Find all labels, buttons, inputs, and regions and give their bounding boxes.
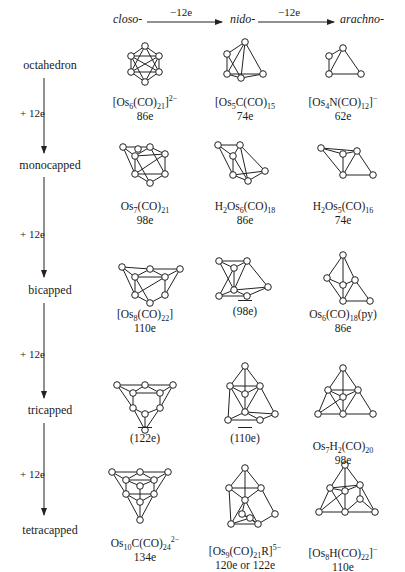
electron-count-tetracapped-nido: 120e or 122e [190,559,300,571]
metal-metal-bond [218,145,233,175]
os-atom [216,293,223,300]
os-atom [137,483,144,490]
metal-metal-bond [245,42,263,74]
os-atom [340,45,347,52]
os-atom [316,509,323,516]
unknown-compound-bar [238,300,252,301]
electron-count-monocapped-nido: 86e [190,214,300,226]
cluster-structures [0,0,405,572]
os-atom [224,51,231,58]
cluster-tricapped-nido [225,363,279,424]
os-atom [147,300,154,307]
os-atom [128,53,135,60]
os-atom [242,409,249,416]
os-atom [245,178,252,185]
formula-bicapped-closo: [Os8(CO)22] [90,308,200,321]
cluster-octahedron-arachno [326,45,365,78]
formula-tetracapped-nido: [Os9(CO)21R]5− [190,545,300,558]
metal-metal-bond [245,412,275,414]
os-atom [137,469,144,476]
os-atom [162,151,169,158]
os-atom [132,274,139,281]
os-atom [354,148,361,155]
formula-monocapped-closo: Os7(CO)21 [90,200,200,213]
os-atom [342,488,349,495]
os-atom [242,497,249,504]
electron-count-tricapped-arachno: 98e [288,454,398,466]
os-atom [225,417,232,424]
formula-tricapped-arachno: Os7H2(CO)20 [288,440,398,453]
metal-metal-bond [240,145,265,171]
os-atom [151,491,158,498]
metal-metal-bond [122,267,135,295]
os-atom [135,146,142,153]
electron-count-tricapped-closo: (122e) [90,427,200,444]
os-atom [142,43,149,50]
os-atom [340,282,347,289]
os-atom [157,405,164,412]
os-atom [231,287,238,294]
os-atom [340,298,347,305]
electron-count-bicapped-closo: 110e [90,322,200,334]
os-atom [123,477,130,484]
metal-metal-bond [229,468,245,488]
os-atom [367,298,374,305]
os-atom [262,168,269,175]
metal-metal-bond [343,255,355,280]
electron-count-monocapped-closo: 98e [90,214,200,226]
os-atom [326,53,333,60]
os-atom [372,509,379,516]
os-atom [170,382,177,389]
os-atom [257,417,264,424]
os-atom [244,293,251,300]
metal-metal-bond [261,488,275,514]
os-atom [226,485,233,492]
metal-metal-bond [229,488,231,524]
formula-tetracapped-closo: Os10C(CO)242− [90,537,200,550]
metal-metal-bond [260,386,275,414]
os-atom [325,387,332,394]
metal-metal-bond [357,151,373,175]
metal-metal-bond [135,277,165,295]
os-atom [272,411,279,418]
os-atom [132,153,139,160]
cluster-monocapped-closo [120,144,169,187]
formula-monocapped-nido: H2Os6(CO)18 [190,200,300,213]
os-atom [215,142,222,149]
os-atom [142,79,149,86]
metal-metal-bond [240,145,248,181]
os-atom [370,411,377,418]
electron-count-bicapped-arachno: 86e [288,322,398,334]
os-atom [162,171,169,178]
os-atom [260,71,267,78]
os-atom [318,145,325,152]
os-atom [120,144,127,151]
os-atom [114,382,121,389]
os-atom [352,277,359,284]
os-atom [326,71,333,78]
os-atom [216,258,223,265]
os-atom [242,391,249,398]
metal-metal-bond [328,368,343,390]
os-atom [109,469,116,476]
os-atom [156,69,163,76]
os-atom [340,151,347,158]
cluster-monocapped-nido [215,142,269,185]
os-atom [370,172,377,179]
unknown-compound-bar [238,427,252,428]
metal-metal-bond [327,255,343,278]
os-atom [132,292,139,299]
formula-tetracapped-arachno: [Os8H(CO)22]− [288,547,398,560]
os-atom [315,411,322,418]
metal-metal-bond [245,468,261,488]
os-atom [151,477,158,484]
os-atom [142,382,149,389]
os-atom [342,509,349,516]
os-atom [230,172,237,179]
os-atom [177,266,184,273]
os-atom [358,71,365,78]
os-atom [239,511,246,518]
os-atom [327,485,334,492]
electron-count-tetracapped-closo: 134e [90,551,200,563]
os-atom [228,521,235,528]
